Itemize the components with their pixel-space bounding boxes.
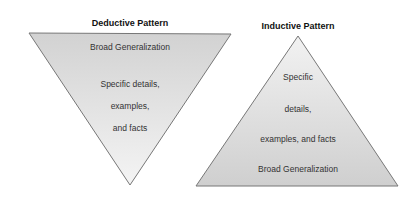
diagram-canvas [0, 0, 413, 197]
deductive-title: Deductive Pattern [92, 18, 169, 28]
deductive-line-2: examples, [111, 101, 150, 111]
inductive-line-2: details, [285, 104, 312, 114]
deductive-line-3: and facts [113, 123, 148, 133]
deductive-line-1: Specific details, [100, 79, 159, 89]
inductive-bottom-label: Broad Generalization [258, 164, 338, 174]
inductive-line-1: Specific [283, 72, 313, 82]
inductive-line-3: examples, and facts [260, 134, 336, 144]
deductive-top-label: Broad Generalization [90, 42, 170, 52]
inductive-title: Inductive Pattern [261, 21, 334, 31]
